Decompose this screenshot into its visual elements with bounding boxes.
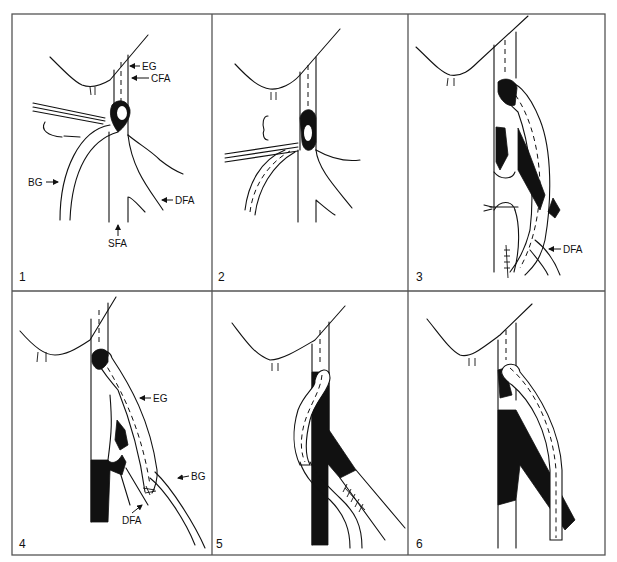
panel-3: DFA 3 [416,16,583,284]
label-eg-4: EG [153,393,168,404]
panel-number-5: 5 [216,537,223,551]
panel-4: EG BG DFA 4 [19,297,206,551]
panel-number-2: 2 [218,270,225,284]
surgical-procedure-figure: EG CFA BG DFA SFA 1 2 [0,0,617,562]
label-bg: BG [28,177,43,188]
panel-number-4: 4 [19,537,26,551]
panel-1: EG CFA BG DFA SFA 1 [19,35,195,284]
label-dfa: DFA [175,195,195,206]
panel-number-6: 6 [416,537,423,551]
label-sfa: SFA [108,238,127,249]
label-dfa-4: DFA [122,515,142,526]
label-eg: EG [142,61,157,72]
panel-6: 6 [416,304,575,551]
panel-5: 5 [216,306,405,551]
panel-number-1: 1 [19,270,26,284]
label-dfa-3: DFA [563,244,583,255]
label-bg-4: BG [191,471,206,482]
panel-number-3: 3 [416,270,423,284]
panel-2: 2 [218,29,360,284]
label-cfa: CFA [151,73,171,84]
